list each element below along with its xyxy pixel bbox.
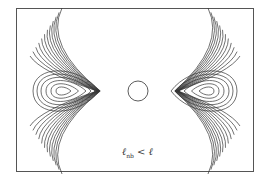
inequality-label: ℓnb < ℓ	[122, 146, 153, 159]
left-contour-group	[30, 8, 100, 174]
label-rhs: ℓ	[149, 146, 153, 157]
label-relation: <	[134, 146, 149, 157]
label-subscript: nb	[126, 152, 134, 159]
right-contour-group	[171, 8, 240, 174]
center-circle	[128, 81, 148, 101]
